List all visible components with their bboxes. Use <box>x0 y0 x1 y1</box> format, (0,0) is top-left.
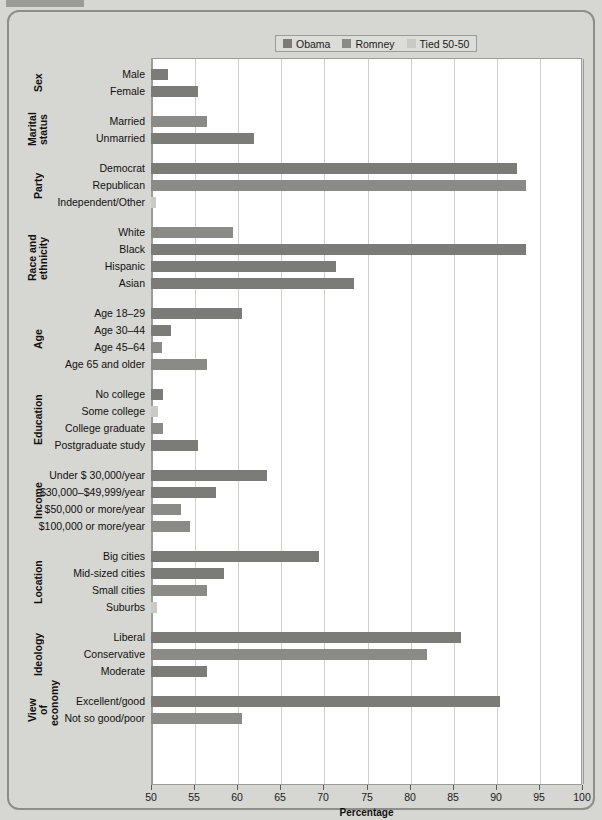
row-label: No college <box>9 389 145 400</box>
bar-age-65-and-older[interactable] <box>151 359 207 370</box>
bar-conservative[interactable] <box>151 649 427 660</box>
row-label: Democrat <box>9 163 145 174</box>
bar-age-18-29[interactable] <box>151 308 242 319</box>
x-tick-90 <box>496 785 497 790</box>
x-tick-label-75: 75 <box>347 791 387 803</box>
bar-married[interactable] <box>151 116 207 127</box>
bars-layer <box>151 58 582 785</box>
legend-swatch-icon <box>407 39 416 48</box>
chart-card: ObamaRomneyTied 50-50 MaleFemaleMarriedU… <box>7 10 595 810</box>
row-label: Age 18–29 <box>9 308 145 319</box>
x-tick-label-95: 95 <box>519 791 559 803</box>
bar-suburbs[interactable] <box>151 602 157 613</box>
chart-legend: ObamaRomneyTied 50-50 <box>275 35 477 52</box>
bar-big-cities[interactable] <box>151 551 319 562</box>
row-label: Mid-sized cities <box>9 568 145 579</box>
legend-swatch-icon <box>342 39 351 48</box>
x-tick-95 <box>539 785 540 790</box>
chart-page: ObamaRomneyTied 50-50 MaleFemaleMarriedU… <box>0 0 602 820</box>
top-tab-stub <box>6 0 84 7</box>
bar-age-45-64[interactable] <box>151 342 162 353</box>
bar-unmarried[interactable] <box>151 133 254 144</box>
bar-age-30-44[interactable] <box>151 325 171 336</box>
bar-not-so-good-poor[interactable] <box>151 713 242 724</box>
x-tick-60 <box>237 785 238 790</box>
x-tick-label-60: 60 <box>217 791 257 803</box>
x-tick-label-80: 80 <box>390 791 430 803</box>
row-labels: MaleFemaleMarriedUnmarriedDemocratRepubl… <box>9 58 149 785</box>
bar-republican[interactable] <box>151 180 526 191</box>
bar-small-cities[interactable] <box>151 585 207 596</box>
bar-under-30-000-year[interactable] <box>151 470 267 481</box>
x-tick-label-65: 65 <box>260 791 300 803</box>
bar-white[interactable] <box>151 227 233 238</box>
x-tick-50 <box>151 785 152 790</box>
row-label: Age 65 and older <box>9 359 145 370</box>
row-label: Female <box>9 86 145 97</box>
row-label: Moderate <box>9 666 145 677</box>
legend-item-tied-50-50[interactable]: Tied 50-50 <box>407 38 470 50</box>
x-tick-label-90: 90 <box>476 791 516 803</box>
row-label: $100,000 or more/year <box>9 521 145 532</box>
row-label: $30,000–$49,999/year <box>9 487 145 498</box>
group-label-party: Party <box>33 161 44 210</box>
group-label-sex: Sex <box>33 67 44 99</box>
row-label: Male <box>9 69 145 80</box>
bar-asian[interactable] <box>151 278 354 289</box>
row-label: $50,000 or more/year <box>9 504 145 515</box>
x-tick-label-70: 70 <box>303 791 343 803</box>
bar--100-000-or-more-year[interactable] <box>151 521 190 532</box>
bar-excellent-good[interactable] <box>151 696 500 707</box>
x-tick-label-50: 50 <box>131 791 171 803</box>
gridline-100 <box>583 59 584 784</box>
bar-some-college[interactable] <box>151 406 158 417</box>
x-tick-80 <box>410 785 411 790</box>
group-label-ideology: Ideology <box>33 630 44 679</box>
row-label: Republican <box>9 180 145 191</box>
row-label: Under $ 30,000/year <box>9 470 145 481</box>
x-tick-label-100: 100 <box>562 791 602 803</box>
bar-no-college[interactable] <box>151 389 163 400</box>
group-label-location: Location <box>33 549 44 615</box>
legend-item-romney[interactable]: Romney <box>342 38 394 50</box>
bar--30-000-49-999-year[interactable] <box>151 487 216 498</box>
legend-label: Obama <box>296 38 330 50</box>
bar-black[interactable] <box>151 244 526 255</box>
x-tick-55 <box>194 785 195 790</box>
x-tick-65 <box>280 785 281 790</box>
bar-female[interactable] <box>151 86 198 97</box>
bar-postgraduate-study[interactable] <box>151 440 198 451</box>
bar-hispanic[interactable] <box>151 261 336 272</box>
legend-label: Romney <box>355 38 394 50</box>
row-label: Big cities <box>9 551 145 562</box>
legend-item-obama[interactable]: Obama <box>283 38 330 50</box>
x-tick-100 <box>582 785 583 790</box>
group-label-view-of-economy: View of economy <box>27 694 60 726</box>
bar-democrat[interactable] <box>151 163 517 174</box>
row-label: Some college <box>9 406 145 417</box>
row-label: Liberal <box>9 632 145 643</box>
x-axis-title: Percentage <box>151 807 582 818</box>
group-label-age: Age <box>33 306 44 372</box>
row-label: Conservative <box>9 649 145 660</box>
row-label: Suburbs <box>9 602 145 613</box>
row-label: Independent/Other <box>9 197 145 208</box>
row-label: Postgraduate study <box>9 440 145 451</box>
group-label-marital-status: Marital status <box>27 114 49 146</box>
x-tick-label-55: 55 <box>174 791 214 803</box>
group-label-income: Income <box>33 468 44 534</box>
bar--50-000-or-more-year[interactable] <box>151 504 181 515</box>
bar-liberal[interactable] <box>151 632 461 643</box>
bar-male[interactable] <box>151 69 168 80</box>
row-label: Age 30–44 <box>9 325 145 336</box>
legend-label: Tied 50-50 <box>420 38 470 50</box>
x-tick-75 <box>367 785 368 790</box>
bar-independent-other[interactable] <box>151 197 156 208</box>
group-label-education: Education <box>33 387 44 453</box>
row-label: Age 45–64 <box>9 342 145 353</box>
x-tick-70 <box>323 785 324 790</box>
bar-college-graduate[interactable] <box>151 423 163 434</box>
bar-moderate[interactable] <box>151 666 207 677</box>
x-tick-label-85: 85 <box>433 791 473 803</box>
bar-mid-sized-cities[interactable] <box>151 568 224 579</box>
